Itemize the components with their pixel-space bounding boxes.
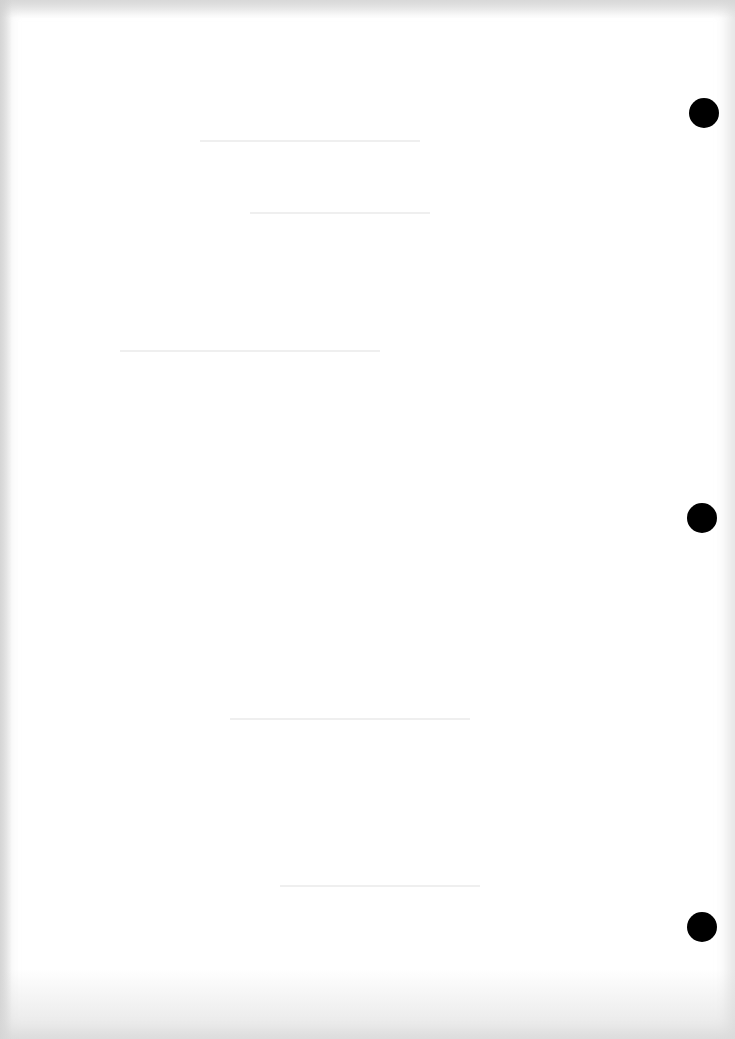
punch-hole-middle	[687, 503, 717, 533]
scan-edge-top	[0, 0, 735, 18]
scanned-page	[0, 0, 735, 1039]
bleed-through-mark	[250, 212, 430, 214]
punch-hole-bottom	[687, 912, 717, 942]
bleed-through-mark	[280, 885, 480, 887]
scan-edge-bottom	[0, 969, 735, 1039]
punch-hole-top	[689, 98, 719, 128]
bleed-through-mark	[230, 718, 470, 720]
bleed-through-mark	[200, 140, 420, 142]
scan-edge-left	[0, 0, 12, 1039]
bleed-through-mark	[120, 350, 380, 352]
